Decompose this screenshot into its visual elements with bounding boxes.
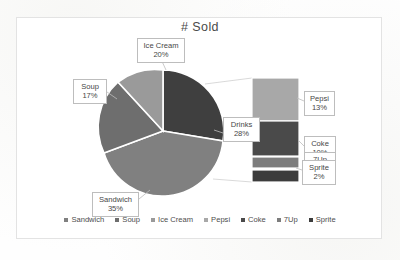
legend-item-ice-cream[interactable]: Ice Cream xyxy=(151,215,193,224)
legend-swatch-icon xyxy=(241,218,245,222)
legend-item-label: Coke xyxy=(248,215,266,224)
pie-chart xyxy=(98,69,224,196)
callout-sandwich-pct: 35% xyxy=(96,204,135,213)
callout-drinks-pct: 28% xyxy=(227,129,256,138)
callout-soup[interactable]: Soup 17% xyxy=(73,79,107,104)
legend-item-label: Sprite xyxy=(316,215,336,224)
legend-item-label: Sandwich xyxy=(71,215,104,224)
callout-soup-name: Soup xyxy=(77,82,103,91)
legend-item-label: Ice Cream xyxy=(158,215,193,224)
callout-soup-pct: 17% xyxy=(77,91,103,100)
callout-ice-cream-pct: 20% xyxy=(141,50,181,59)
legend-item-label: 7Up xyxy=(284,215,298,224)
legend-item-label: Soup xyxy=(122,215,140,224)
bar-segment-sprite[interactable] xyxy=(252,170,299,182)
callout-drinks[interactable]: Drinks 28% xyxy=(223,117,260,142)
callout-sprite-pct: 2% xyxy=(306,172,332,181)
callout-drinks-name: Drinks xyxy=(227,120,256,129)
chart-legend: SandwichSoupIce CreamPepsiCoke7UpSprite xyxy=(0,215,400,224)
legend-item-sandwich[interactable]: Sandwich xyxy=(64,215,104,224)
callout-sandwich[interactable]: Sandwich 35% xyxy=(92,192,139,217)
legend-swatch-icon xyxy=(64,218,68,222)
legend-item-pepsi[interactable]: Pepsi xyxy=(204,215,230,224)
callout-ice-cream-name: Ice Cream xyxy=(141,41,181,50)
callout-sandwich-name: Sandwich xyxy=(96,195,135,204)
legend-swatch-icon xyxy=(151,218,155,222)
legend-item-7up[interactable]: 7Up xyxy=(277,215,298,224)
callout-sprite-name: Sprite xyxy=(306,163,332,172)
callout-pepsi-pct: 13% xyxy=(308,103,331,112)
legend-swatch-icon xyxy=(309,218,313,222)
bar-segment-7up[interactable] xyxy=(252,157,299,168)
legend-swatch-icon xyxy=(277,218,281,222)
callout-ice-cream[interactable]: Ice Cream 20% xyxy=(137,38,185,63)
callout-pepsi[interactable]: Pepsi 13% xyxy=(304,91,335,116)
legend-item-sprite[interactable]: Sprite xyxy=(309,215,336,224)
callout-sprite[interactable]: Sprite 2% xyxy=(302,160,336,185)
legend-swatch-icon xyxy=(115,218,119,222)
legend-item-coke[interactable]: Coke xyxy=(241,215,266,224)
bar-segment-pepsi[interactable] xyxy=(252,78,299,121)
legend-item-label: Pepsi xyxy=(211,215,230,224)
callout-coke-name: Coke xyxy=(308,139,332,148)
legend-swatch-icon xyxy=(204,218,208,222)
legend-item-soup[interactable]: Soup xyxy=(115,215,140,224)
callout-pepsi-name: Pepsi xyxy=(308,94,331,103)
